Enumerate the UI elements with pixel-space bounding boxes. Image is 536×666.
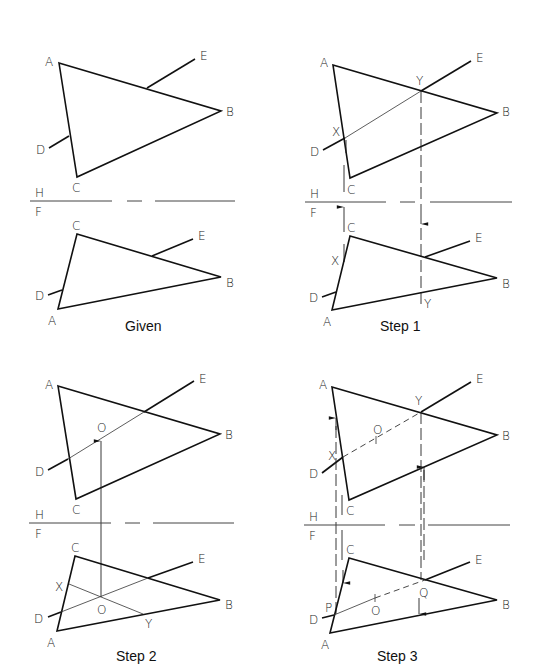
line-de-front-e-segment (148, 562, 193, 578)
label-c: C (72, 503, 80, 517)
label-y: Y (415, 394, 423, 408)
line-de-top-d-segment (48, 459, 68, 470)
projection-lines (344, 91, 421, 305)
label-c: C (346, 504, 354, 518)
line-de-top-d-segment (49, 136, 69, 148)
fold-label-h: H (309, 510, 318, 524)
label-a: A (320, 56, 328, 70)
label-d: D (309, 467, 318, 481)
label-c: C (71, 541, 79, 555)
label-a: A (45, 55, 53, 69)
label-e: E (475, 553, 483, 567)
label-p: P (325, 601, 332, 615)
line-de-front-e-segment (152, 239, 193, 256)
label-o: O (97, 603, 106, 617)
label-a: A (47, 636, 55, 650)
fold-line-hf: H F (305, 187, 512, 220)
caption: Step 1 (380, 318, 421, 334)
label-e: E (476, 51, 484, 65)
line-de-front-d-segment (48, 290, 62, 295)
line-de-top-d-segment (323, 138, 345, 150)
caption: Step 3 (377, 648, 418, 664)
line-de-front-d-segment (48, 612, 61, 617)
fold-label-h: H (35, 508, 44, 522)
panel-given: A B C D E H F C B A D E Given (30, 49, 235, 334)
triangle-abc-front (58, 234, 221, 309)
front-view: C B A D E (35, 219, 234, 328)
label-a: A (323, 315, 331, 329)
front-view: C B A D E P Q O (309, 543, 510, 652)
line-de-front-inner-segment (334, 598, 375, 615)
front-view: C B A D E X Y (309, 221, 510, 329)
triangle-abc-front (57, 556, 220, 631)
label-o: O (371, 604, 380, 618)
label-c: C (72, 219, 80, 233)
triangle-abc-front (332, 236, 497, 310)
label-c: C (347, 221, 355, 235)
label-x: X (331, 254, 339, 268)
label-y: Y (416, 74, 424, 88)
triangle-abc-top (59, 63, 221, 177)
line-de-top-hidden-segment (345, 91, 421, 138)
fold-line-hf: H F (30, 186, 235, 219)
label-o: O (373, 423, 382, 437)
label-d: D (309, 613, 318, 627)
fold-label-h: H (310, 187, 319, 201)
label-e: E (198, 552, 206, 566)
label-b: B (502, 598, 510, 612)
line-de-top-e-segment (421, 61, 471, 91)
label-o: O (97, 421, 106, 435)
line-de-top-e-segment (147, 59, 195, 88)
triangle-abc-top (333, 65, 497, 178)
label-b: B (502, 277, 510, 291)
caption: Given (125, 318, 162, 334)
line-de-front-d-segment (322, 292, 336, 297)
label-d: D (35, 465, 44, 479)
line-de-front-d-segment (322, 615, 334, 618)
line-de-top-e-segment (144, 381, 194, 412)
label-x: X (55, 580, 63, 594)
panel-step-2: A B C D E O H F C B A D E X (29, 372, 234, 664)
label-d: D (310, 145, 319, 159)
line-de-top-e-segment (421, 382, 471, 412)
fold-label-f: F (35, 205, 42, 219)
label-y: Y (145, 617, 153, 631)
label-a: A (319, 378, 327, 392)
label-y: Y (424, 297, 432, 311)
fold-label-f: F (310, 206, 317, 220)
top-view: A B C D E O (35, 372, 233, 517)
top-view: A B C D E (36, 49, 234, 195)
label-x: X (332, 125, 340, 139)
label-b: B (225, 428, 233, 442)
top-view: A B C D E X Y O (309, 372, 510, 518)
fold-label-h: H (35, 186, 44, 200)
fold-label-f: F (309, 529, 316, 543)
label-b: B (225, 598, 233, 612)
label-x: X (328, 449, 336, 463)
label-d: D (34, 612, 43, 626)
label-c: C (346, 543, 354, 557)
label-e: E (200, 49, 208, 63)
label-e: E (476, 372, 484, 386)
caption: Step 2 (116, 648, 157, 664)
label-a: A (45, 378, 53, 392)
label-e: E (475, 231, 483, 245)
label-c: C (347, 183, 355, 197)
line-de-front-e-segment (425, 562, 470, 580)
fold-label-f: F (35, 527, 42, 541)
line-de-top-inner-segment (68, 412, 144, 459)
label-e: E (198, 229, 206, 243)
label-a: A (321, 638, 329, 652)
label-b: B (226, 105, 234, 119)
panel-step-3: A B C D E X Y O H F (304, 372, 510, 664)
label-d: D (309, 291, 318, 305)
label-b: B (502, 105, 510, 119)
label-c: C (72, 181, 80, 195)
fold-line-hf: H F (29, 508, 234, 541)
triangle-abc-front (330, 558, 497, 633)
front-view: C B A D E X Y O (34, 541, 233, 650)
triangle-abc-top (58, 386, 220, 499)
panel-step-1: A B C D E X Y H F C (305, 51, 512, 334)
top-view: A B C D E X Y (310, 51, 510, 197)
label-a: A (48, 314, 56, 328)
